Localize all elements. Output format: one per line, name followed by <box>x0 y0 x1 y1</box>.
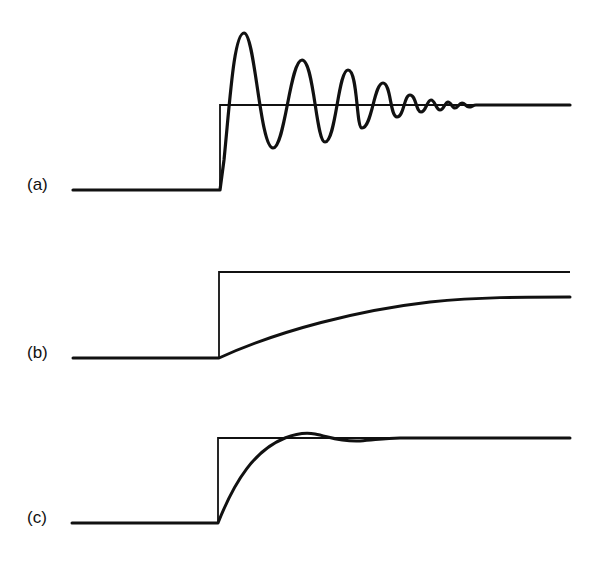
step-response-diagram <box>0 0 598 562</box>
panel-b <box>73 272 570 358</box>
setpoint-step-b <box>219 272 570 358</box>
panel-c <box>72 433 570 523</box>
response-curve-a <box>73 33 570 190</box>
setpoint-step-c <box>218 438 570 523</box>
panel-label-a: (a) <box>27 175 48 195</box>
panel-label-c: (c) <box>27 508 47 528</box>
panel-label-b: (b) <box>27 343 48 363</box>
response-curve-c <box>72 433 570 523</box>
panel-a <box>73 33 570 190</box>
response-curve-b <box>73 297 570 358</box>
